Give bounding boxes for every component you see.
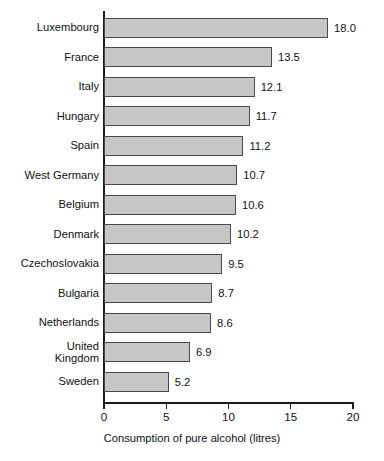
bar <box>104 47 272 67</box>
bar-chart: Luxembourg18.0France13.5Italy12.1Hungary… <box>0 0 384 461</box>
category-label: Czechoslovakia <box>3 249 99 279</box>
category-label: France <box>3 43 99 73</box>
x-axis-title: Consumption of pure alcohol (litres) <box>0 432 384 444</box>
bar <box>104 136 243 156</box>
bar <box>104 342 190 362</box>
bar-rows: Luxembourg18.0France13.5Italy12.1Hungary… <box>0 0 384 402</box>
bar-value-label: 10.2 <box>237 220 259 250</box>
bar-row: Hungary11.7 <box>0 102 384 132</box>
bar <box>104 18 328 38</box>
bar-row: Luxembourg18.0 <box>0 13 384 43</box>
category-label: Spain <box>3 131 99 161</box>
bar-row: West Germany10.7 <box>0 161 384 191</box>
bar-value-label: 12.1 <box>261 72 283 102</box>
category-label: Denmark <box>3 220 99 250</box>
bar-value-label: 5.2 <box>175 367 191 397</box>
x-axis-tick-label: 20 <box>333 410 373 423</box>
bar-value-label: 13.5 <box>278 43 300 73</box>
bar <box>104 254 222 274</box>
bar <box>104 106 250 126</box>
bar <box>104 165 237 185</box>
x-axis-tick <box>166 403 167 409</box>
bar-row: Sweden5.2 <box>0 367 384 397</box>
category-label: Bulgaria <box>3 279 99 309</box>
x-axis-tick <box>290 403 291 409</box>
category-label: West Germany <box>3 161 99 191</box>
bar <box>104 224 231 244</box>
bar-row: Bulgaria8.7 <box>0 279 384 309</box>
bar-value-label: 10.7 <box>243 161 265 191</box>
bar-value-label: 11.2 <box>249 131 270 161</box>
category-label: UnitedKingdom <box>3 338 99 368</box>
bar-value-label: 8.7 <box>218 279 234 309</box>
x-axis-tick <box>352 403 353 409</box>
category-label: Italy <box>3 72 99 102</box>
bar-row: Czechoslovakia9.5 <box>0 249 384 279</box>
x-axis-tick-label: 5 <box>146 410 186 423</box>
category-label: Netherlands <box>3 308 99 338</box>
bar <box>104 372 169 392</box>
bar <box>104 77 255 97</box>
category-label: Belgium <box>3 190 99 220</box>
bar-row: Denmark10.2 <box>0 220 384 250</box>
bar-value-label: 11.7 <box>256 102 277 132</box>
bar-row: Spain11.2 <box>0 131 384 161</box>
bar-row: UnitedKingdom6.9 <box>0 338 384 368</box>
category-label: Luxembourg <box>3 13 99 43</box>
category-label: Hungary <box>3 102 99 132</box>
bar-value-label: 6.9 <box>196 338 212 368</box>
bar-value-label: 8.6 <box>217 308 233 338</box>
bar <box>104 283 212 303</box>
x-axis-tick-label: 0 <box>84 410 124 423</box>
bar-value-label: 18.0 <box>334 13 356 43</box>
category-label: Sweden <box>3 367 99 397</box>
bar-value-label: 9.5 <box>228 249 244 279</box>
bar-row: Netherlands8.6 <box>0 308 384 338</box>
x-axis-tick <box>228 403 229 409</box>
bar-row: Belgium10.6 <box>0 190 384 220</box>
bar-row: Italy12.1 <box>0 72 384 102</box>
x-axis-tick-label: 10 <box>209 410 249 423</box>
bar <box>104 313 211 333</box>
bar-row: France13.5 <box>0 43 384 73</box>
x-axis-tick <box>103 403 104 409</box>
bar-value-label: 10.6 <box>242 190 264 220</box>
bar <box>104 195 236 215</box>
x-axis-tick-label: 15 <box>271 410 311 423</box>
